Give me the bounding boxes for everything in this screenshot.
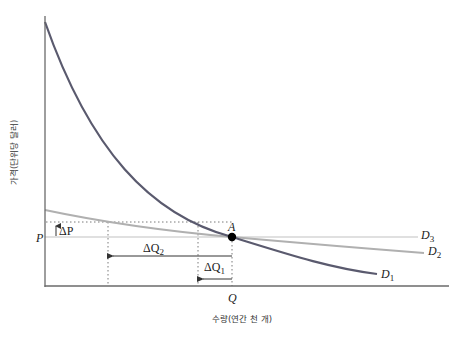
curve-d1-label: D1	[380, 267, 394, 283]
demand-elasticity-diagram: A P Q ΔP ΔQ2 ΔQ1 D3 D2 D1 수량(연간 천 개) 가격(…	[0, 0, 459, 340]
point-a-label: A	[227, 220, 236, 234]
y-axis-label: 가격(단위당 달러)	[9, 120, 19, 185]
x-axis-label: 수량(연간 천 개)	[212, 314, 272, 324]
delta-q2-label: ΔQ2	[143, 241, 164, 257]
curve-d3-label: D3	[420, 228, 435, 244]
quantity-label: Q	[228, 291, 237, 305]
price-label: P	[35, 231, 44, 245]
curve-d2-label: D2	[427, 244, 441, 260]
delta-p-label: ΔP	[59, 224, 74, 238]
delta-q1-label: ΔQ1	[204, 260, 225, 276]
equilibrium-point-a	[228, 233, 236, 241]
